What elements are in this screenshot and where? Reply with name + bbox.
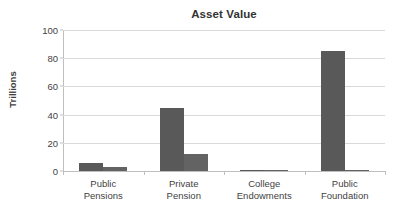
- y-tick-label: 100: [42, 25, 58, 36]
- plot-area: 020406080100: [63, 30, 385, 171]
- bar: [103, 167, 127, 171]
- x-tick-mark: [305, 171, 306, 175]
- y-tick-label: 80: [47, 53, 58, 64]
- x-category-label: PublicFoundation: [305, 178, 386, 202]
- bar-group: [224, 30, 305, 171]
- x-tick-mark: [144, 171, 145, 175]
- x-category-label-line2: Endowments: [224, 190, 305, 202]
- x-category-label: CollegeEndowments: [224, 178, 305, 202]
- x-category-label-line2: Foundation: [305, 190, 386, 202]
- bar-group: [144, 30, 225, 171]
- bar: [345, 170, 369, 171]
- bar: [240, 170, 264, 171]
- bar: [321, 51, 345, 171]
- y-tick-label: 60: [47, 81, 58, 92]
- y-axis-title: Trillions: [7, 60, 18, 120]
- y-tick-label: 40: [47, 109, 58, 120]
- x-category-label: PrivatePension: [144, 178, 225, 202]
- bar: [79, 163, 103, 171]
- chart-title: Asset Value: [63, 8, 385, 20]
- bar-chart: Asset Value Trillions 020406080100 Publi…: [0, 0, 398, 224]
- x-tick-mark: [385, 171, 386, 175]
- bar: [264, 170, 288, 171]
- bar-group: [63, 30, 144, 171]
- x-tick-mark: [224, 171, 225, 175]
- x-category-label-line2: Pensions: [63, 190, 144, 202]
- y-tick-label: 0: [53, 166, 58, 177]
- x-tick-mark: [63, 171, 64, 175]
- bar: [160, 108, 184, 171]
- x-category-label: PublicPensions: [63, 178, 144, 202]
- bar: [184, 154, 208, 171]
- x-category-label-line1: Private: [169, 178, 199, 189]
- y-tick-label: 20: [47, 137, 58, 148]
- x-category-label-line2: Pension: [144, 190, 225, 202]
- bar-group: [305, 30, 386, 171]
- x-category-label-line1: Public: [332, 178, 358, 189]
- x-category-label-line1: Public: [90, 178, 116, 189]
- x-category-label-line1: College: [248, 178, 280, 189]
